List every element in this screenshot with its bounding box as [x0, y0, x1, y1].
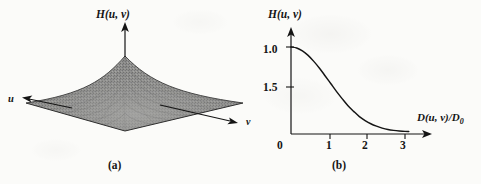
- panel-a-u-axis-label: u: [8, 94, 14, 105]
- panel-b-y-tick-label-1: 1.0: [263, 44, 277, 56]
- panel-b-x-tick-label-0: 0: [277, 140, 283, 152]
- panel-b-x-axis-label-subscript: 0: [460, 117, 464, 126]
- panel-b-x-axis-label-main: D(u, v)/D: [417, 111, 460, 123]
- panel-a-vertical-axis-label: H(u, v): [96, 9, 130, 21]
- surface-mesh: [26, 56, 243, 131]
- panel-b-x-tick-label-3: 3: [400, 140, 406, 152]
- panel-b-y-axis-label: H(u, v): [268, 9, 302, 21]
- panel-b: H(u, v) D(u, v)/D0 1.0 1.5 0 1 2 3 (b): [250, 0, 481, 184]
- panel-b-x-tick-label-2: 2: [362, 140, 368, 152]
- panel-b-curve: [291, 47, 409, 131]
- panel-a-plot: [0, 0, 250, 184]
- panel-b-x-axis-label: D(u, v)/D0: [417, 112, 464, 123]
- panel-a-caption: (a): [108, 160, 121, 172]
- figure-container: H(u, v) u v (a): [0, 0, 481, 184]
- panel-b-y-ticks: [286, 47, 294, 87]
- panel-b-caption: (b): [332, 160, 346, 172]
- panel-b-plot: [250, 0, 481, 184]
- panel-b-y-axis: [287, 27, 295, 134]
- panel-b-x-tick-label-1: 1: [326, 140, 332, 152]
- panel-a-vertical-axis: [121, 22, 129, 57]
- panel-a: H(u, v) u v (a): [0, 0, 250, 184]
- panel-b-y-tick-label-2: 1.5: [263, 82, 277, 94]
- panel-b-x-axis: [291, 130, 432, 138]
